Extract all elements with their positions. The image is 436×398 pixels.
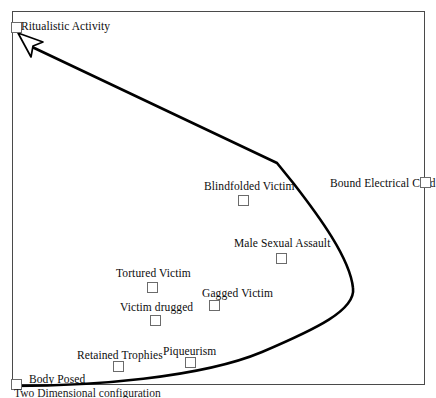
point-label-male-sexual-assault: Male Sexual Assault [234, 238, 330, 250]
point-label-blindfolded-victim: Blindfolded Victim [204, 181, 295, 193]
point-label-victim-drugged: Victim drugged [120, 302, 193, 314]
point-marker-victim-drugged[interactable] [150, 315, 161, 326]
point-label-body-posed: Body Posed [29, 374, 85, 386]
point-marker-retained-trophies[interactable] [113, 361, 124, 372]
point-label-gagged-victim: Gagged Victim [202, 288, 273, 300]
point-marker-blindfolded-victim[interactable] [238, 195, 249, 206]
point-label-ritualistic-activity: Ritualistic Activity [21, 21, 110, 33]
point-marker-piqueurism[interactable] [185, 357, 196, 368]
point-label-retained-trophies: Retained Trophies [77, 350, 163, 362]
figure-caption: Two Dimensional configuration [14, 388, 161, 398]
plot-frame [12, 11, 425, 385]
point-marker-gagged-victim[interactable] [209, 300, 220, 311]
point-label-tortured-victim: Tortured Victim [116, 268, 191, 280]
point-marker-male-sexual-assault[interactable] [276, 253, 287, 264]
point-marker-tortured-victim[interactable] [147, 282, 158, 293]
point-label-piqueurism: Piqueurism [163, 346, 216, 358]
point-marker-bound-electrical-cord[interactable] [420, 177, 431, 188]
